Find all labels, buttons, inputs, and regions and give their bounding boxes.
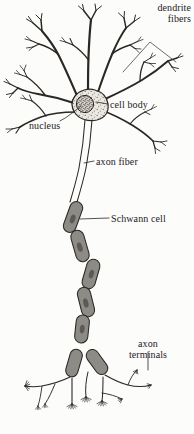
schwann-cell-leader [80,218,109,219]
label-dendrite-fibers: dendrite fibers [129,2,191,24]
label-nucleus: nucleus [29,120,60,131]
label-dendrite-fibers-line2: fibers [168,13,191,24]
neuron-diagram: dendrite fibers cell body nucleus axon f… [0,0,194,434]
dendrite-fibers-leader [123,42,176,72]
label-dendrite-fibers-line1: dendrite [157,2,191,13]
axon-fiber-shape [70,120,92,202]
label-cell-body: cell body [110,99,148,110]
axon-fiber-leader [84,161,94,163]
dendrite-fibers-group [4,4,183,154]
label-schwann-cell: Schwann cell [111,213,166,224]
axon-terminals-group [24,369,151,410]
label-axon-terminals-line1: axon [138,338,158,349]
label-axon-terminals: axon terminals [115,338,181,360]
nucleus-shape [76,95,93,112]
schwann-cell-chain [62,200,111,378]
label-axon-terminals-line2: terminals [129,349,167,360]
label-axon-fiber: axon fiber [96,156,138,167]
